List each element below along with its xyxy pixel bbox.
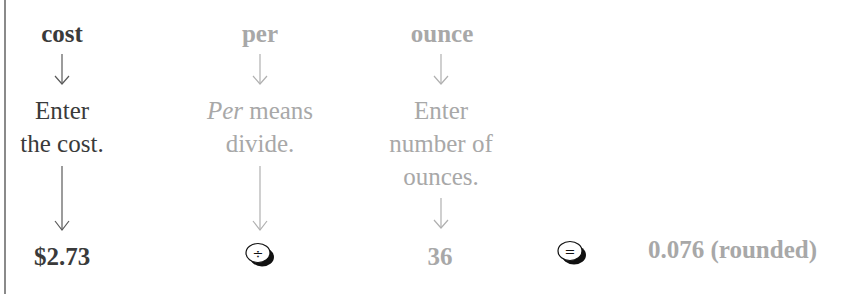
- cost-instruction-line2: the cost.: [2, 128, 122, 160]
- ounce-instruction-line2: number of: [366, 128, 516, 160]
- down-arrow-icon: [431, 198, 451, 230]
- equals-key-icon: =: [556, 240, 586, 264]
- down-arrow-icon: [431, 54, 451, 86]
- down-arrow-icon: [250, 166, 270, 232]
- per-header: per: [220, 20, 300, 48]
- per-italic: Per: [207, 97, 243, 124]
- ounce-header: ounce: [392, 20, 492, 48]
- cost-header: cost: [22, 20, 102, 48]
- per-means: means: [243, 97, 313, 124]
- cost-instruction-line1: Enter: [2, 95, 122, 127]
- result-value: 0.076 (rounded): [648, 236, 848, 264]
- ounce-instruction-line3: ounces.: [366, 161, 516, 193]
- svg-text:=: =: [565, 244, 576, 259]
- per-instruction-line2: divide.: [185, 128, 335, 160]
- down-arrow-icon: [250, 54, 270, 86]
- down-arrow-icon: [52, 166, 72, 232]
- per-instruction-line1: Per means: [185, 95, 335, 127]
- divide-key-icon: ÷: [244, 242, 274, 266]
- ounce-value: 36: [400, 243, 480, 271]
- ounce-instruction-line1: Enter: [366, 95, 516, 127]
- down-arrow-icon: [52, 54, 72, 86]
- svg-text:÷: ÷: [253, 246, 264, 261]
- cost-value: $2.73: [12, 243, 112, 271]
